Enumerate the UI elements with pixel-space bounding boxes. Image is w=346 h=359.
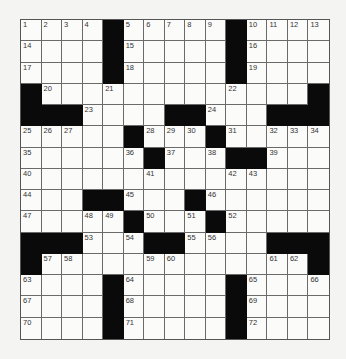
grid-cell[interactable]: 18 bbox=[124, 63, 145, 84]
grid-cell[interactable] bbox=[62, 63, 83, 84]
grid-cell[interactable]: 30 bbox=[185, 126, 206, 147]
grid-cell[interactable] bbox=[42, 190, 63, 211]
grid-cell[interactable] bbox=[165, 318, 186, 339]
grid-cell[interactable] bbox=[144, 296, 165, 317]
grid-cell[interactable]: 29 bbox=[165, 126, 186, 147]
grid-cell[interactable] bbox=[267, 63, 288, 84]
grid-cell[interactable]: 10 bbox=[247, 20, 268, 41]
grid-cell[interactable] bbox=[165, 84, 186, 105]
grid-cell[interactable] bbox=[165, 211, 186, 232]
grid-cell[interactable]: 39 bbox=[267, 148, 288, 169]
grid-cell[interactable] bbox=[185, 254, 206, 275]
grid-cell[interactable] bbox=[144, 105, 165, 126]
grid-cell[interactable]: 46 bbox=[206, 190, 227, 211]
grid-cell[interactable]: 67 bbox=[21, 296, 42, 317]
grid-cell[interactable] bbox=[62, 169, 83, 190]
grid-cell[interactable]: 9 bbox=[206, 20, 227, 41]
grid-cell[interactable] bbox=[308, 169, 329, 190]
grid-cell[interactable] bbox=[124, 169, 145, 190]
grid-cell[interactable] bbox=[288, 84, 309, 105]
grid-cell[interactable] bbox=[267, 211, 288, 232]
grid-cell[interactable]: 57 bbox=[42, 254, 63, 275]
grid-cell[interactable] bbox=[206, 169, 227, 190]
grid-cell[interactable] bbox=[83, 318, 104, 339]
grid-cell[interactable]: 62 bbox=[288, 254, 309, 275]
grid-cell[interactable]: 58 bbox=[62, 254, 83, 275]
grid-cell[interactable] bbox=[165, 190, 186, 211]
grid-cell[interactable] bbox=[83, 254, 104, 275]
grid-cell[interactable]: 35 bbox=[21, 148, 42, 169]
grid-cell[interactable]: 50 bbox=[144, 211, 165, 232]
grid-cell[interactable]: 1 bbox=[21, 20, 42, 41]
grid-cell[interactable] bbox=[288, 275, 309, 296]
grid-cell[interactable]: 70 bbox=[21, 318, 42, 339]
grid-cell[interactable] bbox=[267, 296, 288, 317]
grid-cell[interactable] bbox=[247, 254, 268, 275]
grid-cell[interactable] bbox=[83, 148, 104, 169]
grid-cell[interactable] bbox=[42, 148, 63, 169]
grid-cell[interactable] bbox=[103, 254, 124, 275]
grid-cell[interactable] bbox=[144, 63, 165, 84]
grid-cell[interactable] bbox=[288, 296, 309, 317]
grid-cell[interactable] bbox=[288, 318, 309, 339]
grid-cell[interactable]: 52 bbox=[226, 211, 247, 232]
grid-cell[interactable] bbox=[185, 63, 206, 84]
grid-cell[interactable]: 19 bbox=[247, 63, 268, 84]
grid-cell[interactable]: 69 bbox=[247, 296, 268, 317]
grid-cell[interactable] bbox=[288, 148, 309, 169]
grid-cell[interactable] bbox=[165, 275, 186, 296]
grid-cell[interactable]: 64 bbox=[124, 275, 145, 296]
grid-cell[interactable] bbox=[206, 318, 227, 339]
grid-cell[interactable]: 44 bbox=[21, 190, 42, 211]
grid-cell[interactable] bbox=[103, 105, 124, 126]
grid-cell[interactable] bbox=[165, 63, 186, 84]
grid-cell[interactable]: 49 bbox=[103, 211, 124, 232]
grid-cell[interactable] bbox=[185, 41, 206, 62]
grid-cell[interactable]: 53 bbox=[83, 233, 104, 254]
grid-cell[interactable]: 71 bbox=[124, 318, 145, 339]
grid-cell[interactable] bbox=[288, 169, 309, 190]
grid-cell[interactable]: 47 bbox=[21, 211, 42, 232]
grid-cell[interactable] bbox=[62, 318, 83, 339]
grid-cell[interactable]: 43 bbox=[247, 169, 268, 190]
grid-cell[interactable] bbox=[62, 211, 83, 232]
grid-cell[interactable] bbox=[247, 211, 268, 232]
grid-cell[interactable] bbox=[83, 126, 104, 147]
grid-cell[interactable] bbox=[42, 169, 63, 190]
grid-cell[interactable] bbox=[267, 190, 288, 211]
grid-cell[interactable]: 65 bbox=[247, 275, 268, 296]
grid-cell[interactable] bbox=[103, 126, 124, 147]
grid-cell[interactable]: 23 bbox=[83, 105, 104, 126]
grid-cell[interactable] bbox=[247, 105, 268, 126]
grid-cell[interactable] bbox=[185, 318, 206, 339]
grid-cell[interactable] bbox=[288, 190, 309, 211]
grid-cell[interactable]: 59 bbox=[144, 254, 165, 275]
grid-cell[interactable]: 26 bbox=[42, 126, 63, 147]
grid-cell[interactable] bbox=[144, 318, 165, 339]
grid-cell[interactable] bbox=[247, 233, 268, 254]
grid-cell[interactable]: 55 bbox=[185, 233, 206, 254]
grid-cell[interactable] bbox=[124, 254, 145, 275]
grid-cell[interactable]: 38 bbox=[206, 148, 227, 169]
grid-cell[interactable] bbox=[226, 233, 247, 254]
grid-cell[interactable] bbox=[185, 148, 206, 169]
grid-cell[interactable]: 12 bbox=[288, 20, 309, 41]
grid-cell[interactable] bbox=[165, 41, 186, 62]
grid-cell[interactable]: 60 bbox=[165, 254, 186, 275]
grid-cell[interactable]: 7 bbox=[165, 20, 186, 41]
grid-cell[interactable]: 5 bbox=[124, 20, 145, 41]
grid-cell[interactable]: 66 bbox=[308, 275, 329, 296]
grid-cell[interactable]: 48 bbox=[83, 211, 104, 232]
grid-cell[interactable]: 6 bbox=[144, 20, 165, 41]
grid-cell[interactable] bbox=[62, 275, 83, 296]
grid-cell[interactable]: 27 bbox=[62, 126, 83, 147]
grid-cell[interactable] bbox=[206, 84, 227, 105]
grid-cell[interactable]: 11 bbox=[267, 20, 288, 41]
grid-cell[interactable]: 51 bbox=[185, 211, 206, 232]
grid-cell[interactable] bbox=[206, 275, 227, 296]
grid-cell[interactable] bbox=[267, 275, 288, 296]
grid-cell[interactable]: 45 bbox=[124, 190, 145, 211]
grid-cell[interactable]: 36 bbox=[124, 148, 145, 169]
grid-cell[interactable] bbox=[42, 296, 63, 317]
grid-cell[interactable] bbox=[288, 41, 309, 62]
